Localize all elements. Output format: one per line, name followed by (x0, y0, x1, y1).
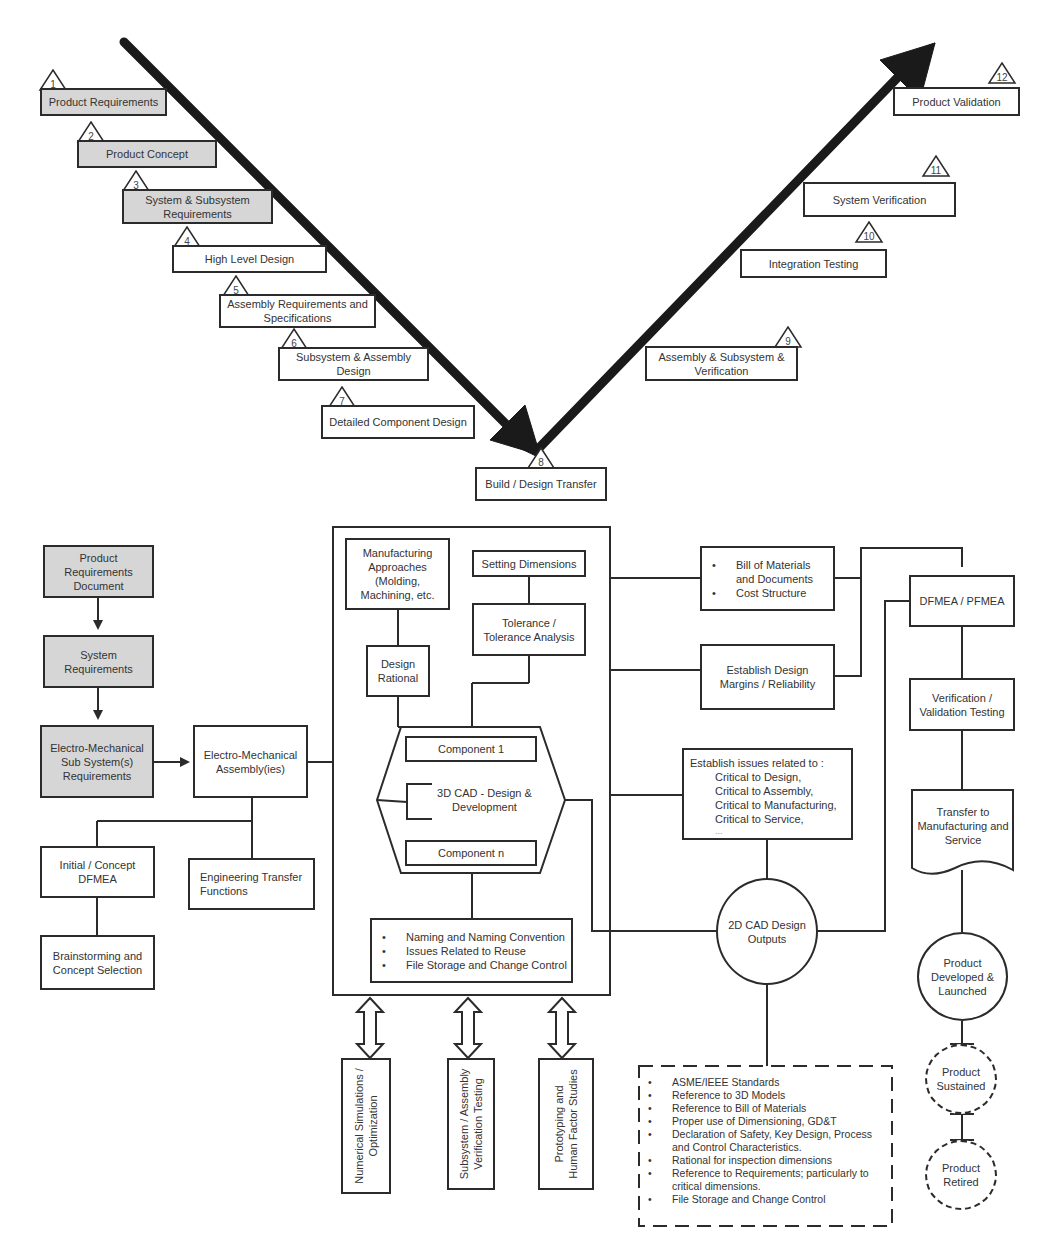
step-badge-11: 11 (921, 155, 951, 177)
bom-list: Bill of Materials and Documents Cost Str… (706, 558, 829, 600)
initial-concept-dfmea[interactable]: Initial / Concept DFMEA (40, 846, 155, 898)
verification-validation-testing[interactable]: Verification / Validation Testing (909, 678, 1015, 731)
dfmea-pfmea[interactable]: DFMEA / PFMEA (909, 575, 1015, 627)
product-retired[interactable]: Product Retired (925, 1140, 997, 1210)
step-badge-8: 8 (526, 447, 556, 469)
step-system-verification[interactable]: System Verification (803, 182, 956, 217)
step-integration-testing[interactable]: Integration Testing (740, 249, 887, 278)
step-badge-10: 10 (854, 221, 884, 243)
system-requirements[interactable]: System Requirements (43, 635, 154, 688)
cad-2d-design-outputs[interactable]: 2D CAD Design Outputs (716, 878, 818, 985)
step-assembly-subsystem-verification[interactable]: Assembly & Subsystem & Verification (645, 346, 798, 381)
double-arrows (357, 998, 575, 1058)
component-1[interactable]: Component 1 (405, 736, 537, 762)
electro-mechanical-assembly[interactable]: Electro-Mechanical Assembly(ies) (193, 725, 308, 798)
cad-2d-notes: ASME/IEEE Standards Reference to 3D Mode… (642, 1076, 890, 1206)
cad-notes-box[interactable]: Naming and Naming Convention Issues Rela… (370, 918, 573, 983)
bill-of-materials[interactable]: Bill of Materials and Documents Cost Str… (700, 546, 835, 611)
step-system-subsystem-requirements[interactable]: System & Subsystem Requirements (122, 189, 273, 224)
component-n[interactable]: Component n (405, 840, 537, 866)
step-badge-12: 12 (987, 62, 1017, 84)
product-sustained[interactable]: Product Sustained (925, 1044, 997, 1114)
subsystem-requirements[interactable]: Electro-Mechanical Sub System(s) Require… (40, 725, 154, 798)
setting-dimensions[interactable]: Setting Dimensions (472, 550, 586, 577)
step-detailed-component-design[interactable]: Detailed Component Design (321, 405, 475, 439)
engineering-transfer-functions[interactable]: Engineering Transfer Functions (188, 858, 315, 910)
design-rational[interactable]: Design Rational (366, 645, 430, 697)
manufacturing-approaches[interactable]: Manufacturing Approaches (Molding, Machi… (345, 538, 450, 610)
design-margins-reliability[interactable]: Establish Design Margins / Reliability (700, 644, 835, 710)
numerical-simulations[interactable]: Numerical Simulations / Optimization (341, 1058, 391, 1194)
cad-notes-list: Naming and Naming Convention Issues Rela… (376, 930, 567, 972)
critical-issues-box[interactable]: Establish issues related to : Critical t… (682, 748, 853, 840)
step-product-requirements[interactable]: Product Requirements (40, 88, 167, 116)
product-requirements-document[interactable]: Product Requirements Document (43, 545, 154, 598)
product-developed-launched[interactable]: Product Developed & Launched (917, 932, 1008, 1021)
critical-issues-list: Critical to Design, Critical to Assembly… (690, 770, 837, 836)
step-assembly-requirements[interactable]: Assembly Requirements and Specifications (219, 294, 376, 328)
subsystem-verification-testing[interactable]: Subsystem / Assembly Verification Testin… (447, 1058, 495, 1190)
step-product-concept[interactable]: Product Concept (77, 140, 217, 168)
step-badge-9: 9 (773, 326, 803, 348)
brainstorming-concept-selection[interactable]: Brainstorming and Concept Selection (40, 935, 155, 990)
transfer-to-manufacturing[interactable]: Transfer to Manufacturing and Service (915, 805, 1011, 847)
cad-3d-label: 3D CAD - Design & Development (432, 786, 537, 814)
step-build-design-transfer[interactable]: Build / Design Transfer (475, 467, 607, 501)
prototyping-human-factors[interactable]: Prototyping and Human Factor Studies (538, 1058, 594, 1190)
step-high-level-design[interactable]: High Level Design (172, 245, 327, 273)
v-right-arrow (540, 43, 935, 447)
step-product-validation[interactable]: Product Validation (893, 87, 1020, 116)
step-subsystem-assembly-design[interactable]: Subsystem & Assembly Design (278, 347, 429, 381)
tolerance-analysis[interactable]: Tolerance / Tolerance Analysis (472, 603, 586, 656)
critical-issues-content: Establish issues related to : Critical t… (690, 756, 837, 836)
